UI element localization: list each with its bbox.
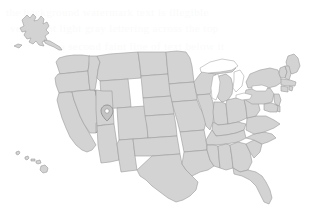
- map-canvas[interactable]: the background watermark text is illegib…: [0, 0, 310, 219]
- state-virginia[interactable]: [246, 116, 280, 134]
- state-iowa[interactable]: [169, 82, 197, 102]
- alaska-aleutians: [14, 44, 22, 48]
- state-hawaii-maui[interactable]: [36, 160, 41, 164]
- state-kansas[interactable]: [145, 114, 177, 138]
- state-indiana[interactable]: [213, 102, 228, 125]
- state-ohio[interactable]: [226, 98, 247, 124]
- lake-huron: [233, 70, 244, 92]
- state-arkansas[interactable]: [180, 130, 207, 152]
- state-montana[interactable]: [97, 52, 141, 81]
- state-hawaii-bigisland[interactable]: [40, 165, 48, 173]
- state-colorado[interactable]: [117, 106, 148, 140]
- state-minnesota[interactable]: [166, 51, 194, 84]
- state-new-york[interactable]: [246, 68, 282, 88]
- state-hawaii-molokai[interactable]: [31, 159, 35, 161]
- state-rhode-island[interactable]: [289, 86, 293, 91]
- state-arizona[interactable]: [97, 124, 119, 163]
- hawaii-inset[interactable]: [16, 151, 48, 173]
- us-map-svg[interactable]: [0, 0, 310, 219]
- state-hawaii-oahu[interactable]: [25, 156, 29, 160]
- alaska-inset[interactable]: [14, 14, 62, 50]
- state-oklahoma[interactable]: [133, 136, 180, 156]
- map-pin-center: [105, 109, 109, 113]
- state-connecticut[interactable]: [281, 86, 288, 92]
- state-hawaii-kauai[interactable]: [16, 151, 20, 155]
- state-oregon[interactable]: [55, 71, 90, 93]
- state-florida[interactable]: [233, 168, 272, 204]
- state-nebraska[interactable]: [143, 96, 174, 116]
- state-north-dakota[interactable]: [138, 52, 168, 76]
- alaska-panhandle: [44, 40, 62, 50]
- state-massachusetts[interactable]: [281, 79, 296, 86]
- state-south-dakota[interactable]: [141, 74, 171, 98]
